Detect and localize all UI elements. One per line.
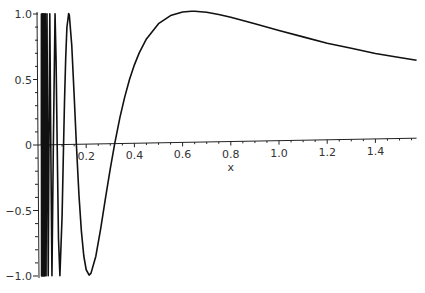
x-tick-label: 1.0: [270, 147, 288, 160]
axes: [37, 12, 417, 278]
x-tick-label: 0.8: [222, 148, 240, 161]
plot-area: 0.20.40.60.81.01.21.4 1.00.50−0.5−1.0 x: [0, 0, 425, 293]
y-tick-label: 1.0: [15, 8, 33, 21]
x-ticks: 0.20.40.60.81.01.21.4: [50, 138, 412, 163]
x-tick-label: 0.6: [174, 148, 192, 161]
y-tick-label: 0: [25, 139, 32, 152]
x-tick-label: 0.4: [126, 149, 144, 162]
y-tick-label: −1.0: [5, 270, 32, 283]
x-tick-label: 0.2: [77, 150, 95, 163]
x-axis-label: x: [228, 161, 235, 174]
x-axis: [38, 138, 417, 145]
y-tick-label: 0.5: [15, 74, 33, 87]
x-tick-label: 1.4: [367, 145, 385, 158]
y-tick-label: −0.5: [5, 205, 32, 218]
y-ticks: 1.00.50−0.5−1.0: [5, 8, 38, 283]
x-tick-label: 1.2: [318, 146, 336, 159]
